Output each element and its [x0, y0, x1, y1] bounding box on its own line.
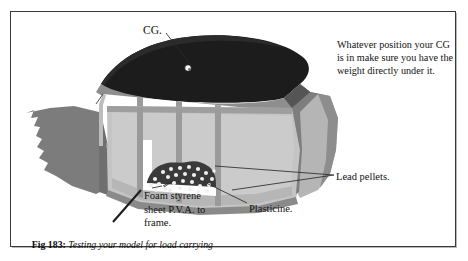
hull-frame-1 — [137, 108, 143, 198]
bow-cutaway-section — [26, 106, 108, 195]
figure-caption-tag: Fig 183: — [32, 239, 66, 250]
figure-page: CG. Whatever position your CG is in make… — [0, 0, 468, 261]
note-cg-weight: Whatever position your CG is in make sur… — [337, 38, 457, 77]
bow-hull-broken-edge — [26, 106, 104, 194]
figure-caption-text: Testing your model for load carrying — [68, 239, 213, 250]
cg-marker-dot — [185, 65, 192, 72]
figure-caption: Fig 183: Testing your model for load car… — [22, 228, 213, 261]
label-foam-styrene: Foam styrene sheet P.V.A. to frame. — [144, 189, 224, 230]
label-cg: CG. — [143, 24, 162, 38]
label-lead-pellets: Lead pellets. — [336, 171, 390, 183]
cg-marker-dot-shadow — [188, 68, 190, 70]
label-plasticine: Plasticine. — [249, 203, 292, 215]
